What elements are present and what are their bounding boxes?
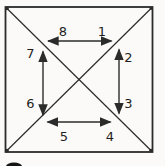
corner-dot-bottomleft — [5, 149, 9, 153]
corner-dot-topleft — [5, 7, 9, 11]
square-diagonals-diagram: 8 1 2 3 7 6 5 4 — [0, 0, 165, 166]
label-7: 7 — [26, 46, 34, 61]
label-8: 8 — [59, 24, 67, 39]
cropped-caption-fragment — [6, 163, 22, 167]
label-5: 5 — [60, 129, 68, 144]
figure-canvas: 8 1 2 3 7 6 5 4 — [0, 0, 165, 166]
corner-dot-bottomright — [149, 149, 153, 153]
label-6: 6 — [26, 96, 34, 111]
corner-dot-topright — [150, 7, 153, 10]
label-1: 1 — [98, 24, 106, 39]
label-2: 2 — [124, 50, 132, 65]
label-3: 3 — [124, 96, 132, 111]
label-4: 4 — [106, 129, 114, 144]
